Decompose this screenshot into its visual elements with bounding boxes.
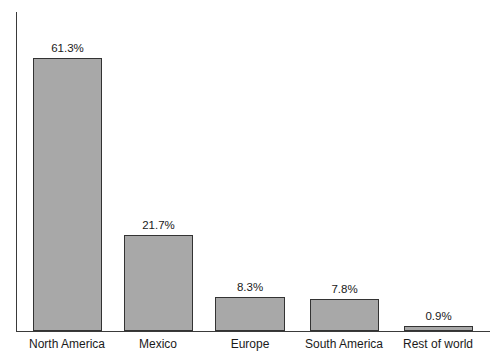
x-tick-label-3: South America [305, 336, 383, 352]
bar-group-1[interactable]: 21.7% [124, 235, 193, 331]
bar-group-3[interactable]: 7.8% [310, 299, 379, 331]
x-tick-label-4: Rest of world [403, 336, 473, 352]
bar-group-2[interactable]: 8.3% [215, 297, 285, 331]
bar-chart: 61.3% 21.7% 8.3% 7.8% 0.9% North America… [0, 0, 496, 364]
x-tick-label-2: Europe [231, 336, 270, 352]
bar-3[interactable] [310, 299, 379, 331]
x-axis-line [16, 331, 490, 332]
x-tick-label-1: Mexico [139, 336, 177, 352]
y-axis-line [16, 12, 17, 331]
bar-2[interactable] [215, 297, 285, 331]
bar-value-label-3: 7.8% [331, 283, 357, 296]
bar-value-label-0: 61.3% [51, 42, 84, 55]
bar-value-label-1: 21.7% [142, 219, 175, 232]
bar-value-label-4: 0.9% [425, 310, 451, 323]
bar-value-label-2: 8.3% [237, 281, 263, 294]
x-tick-label-0: North America [29, 336, 105, 352]
bar-group-0[interactable]: 61.3% [33, 58, 102, 331]
plot-area: 61.3% 21.7% 8.3% 7.8% 0.9% [0, 0, 496, 331]
bar-0[interactable] [33, 58, 102, 331]
bar-1[interactable] [124, 235, 193, 331]
